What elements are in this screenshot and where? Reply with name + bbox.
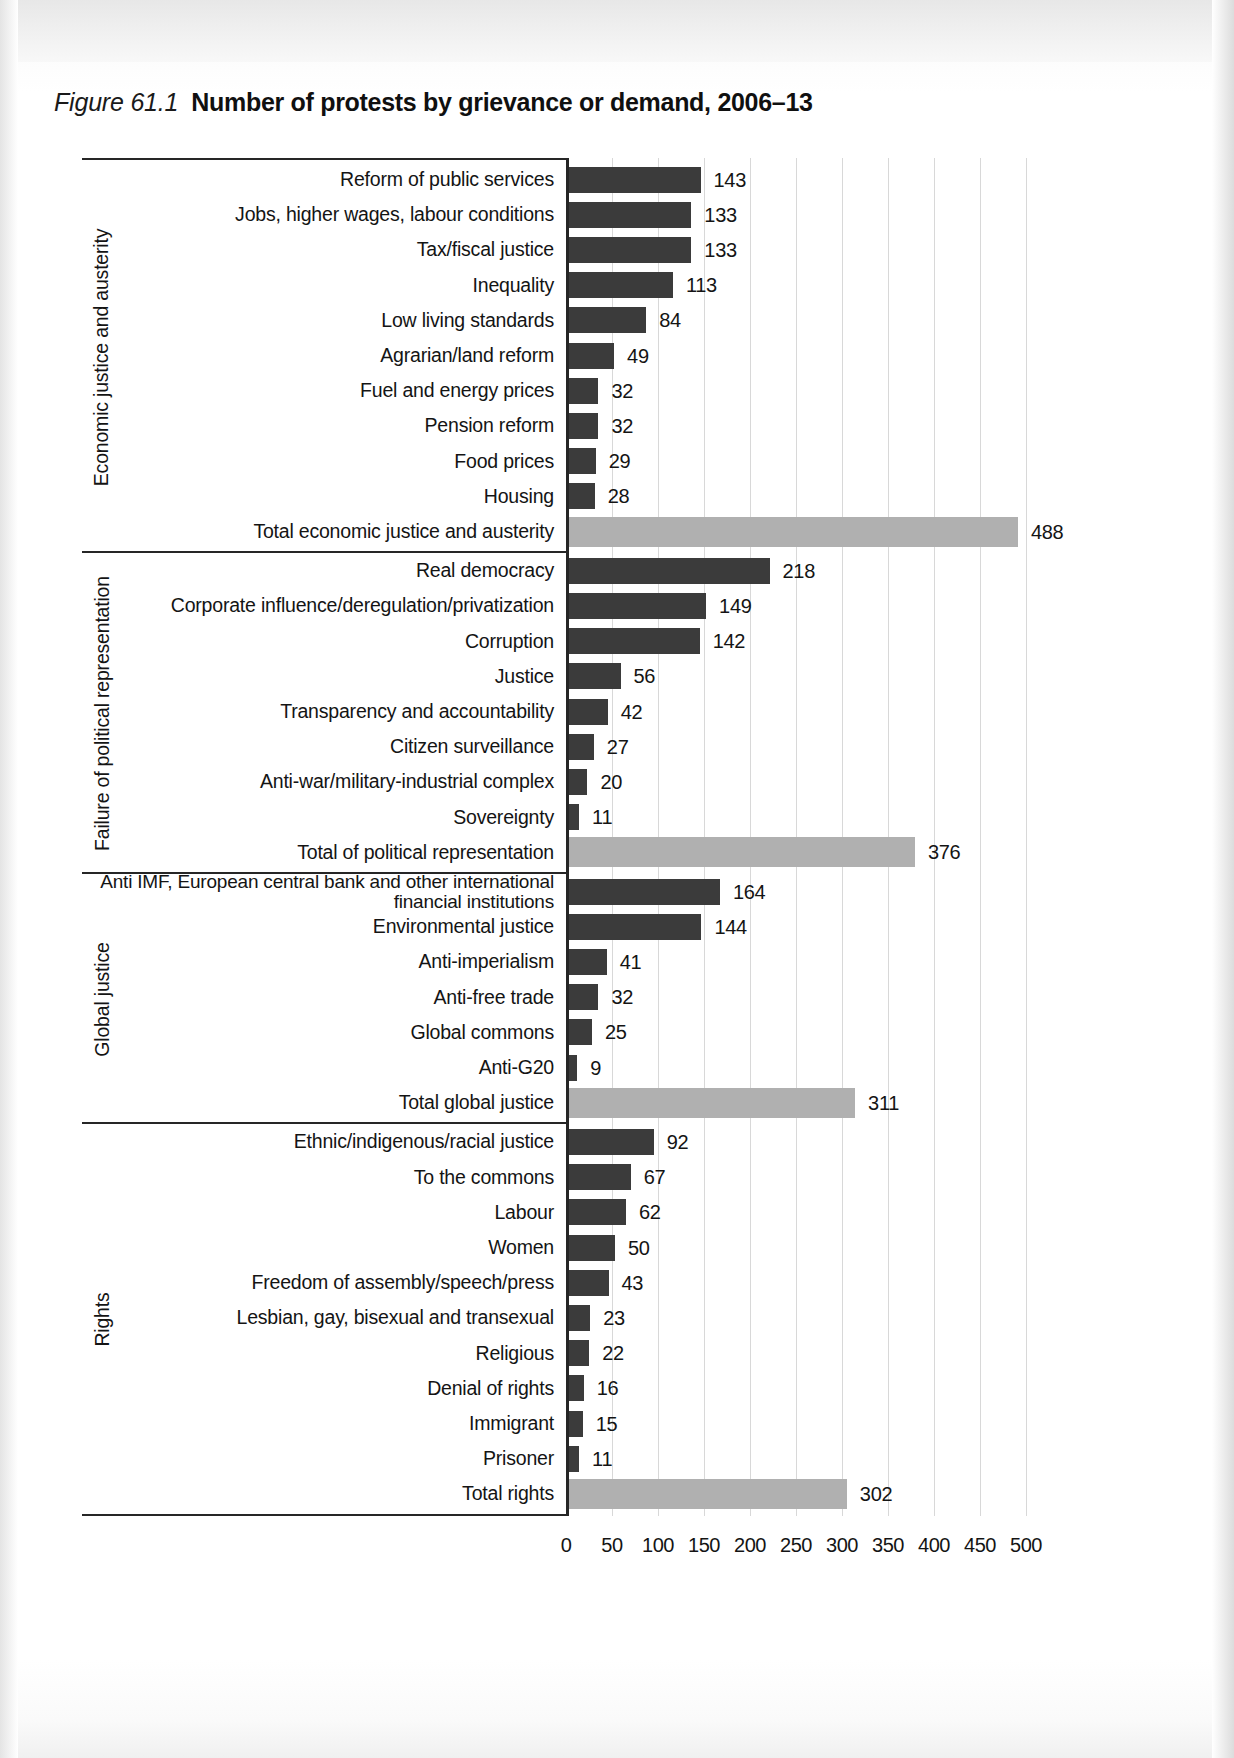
bar-value-label: 376 xyxy=(928,840,960,864)
x-axis-tick-50: 50 xyxy=(601,1534,622,1557)
group-label-text: Rights xyxy=(91,1293,114,1347)
category-bar xyxy=(569,1164,631,1190)
category-bar xyxy=(569,1235,615,1261)
category-bar xyxy=(569,1055,577,1081)
bar-chart: Reform of public services143Jobs, higher… xyxy=(82,158,1114,1518)
bar-category-label: Agrarian/land reform xyxy=(84,338,566,373)
bar-total-label: Total rights xyxy=(84,1476,566,1511)
bar-value-label: 11 xyxy=(592,805,612,829)
x-axis-tick-0: 0 xyxy=(561,1534,572,1557)
bar-category-label: Citizen surveillance xyxy=(84,729,566,764)
bar-category-label: Fuel and energy prices xyxy=(84,373,566,408)
bar-value-label: 25 xyxy=(605,1020,627,1044)
bar-value-label: 302 xyxy=(860,1482,892,1506)
category-bar xyxy=(569,1446,579,1472)
bar-category-label: Labour xyxy=(84,1195,566,1230)
bar-category-label: Denial of rights xyxy=(84,1371,566,1406)
x-axis-tick-450: 450 xyxy=(964,1534,996,1557)
category-bar xyxy=(569,1305,590,1331)
category-bar xyxy=(569,1375,584,1401)
total-bar xyxy=(569,517,1018,547)
bar-category-label: Corruption xyxy=(84,624,566,659)
bar-value-label: 164 xyxy=(733,880,765,904)
category-bar xyxy=(569,984,598,1010)
category-bar xyxy=(569,1199,626,1225)
bar-category-label: Anti IMF, European central bank and othe… xyxy=(84,874,566,909)
bar-category-label: Religious xyxy=(84,1336,566,1371)
total-bar xyxy=(569,837,915,867)
bar-category-label: Inequality xyxy=(84,268,566,303)
category-bar xyxy=(569,949,607,975)
bar-category-label: Anti-free trade xyxy=(84,980,566,1015)
category-bar xyxy=(569,663,621,689)
bar-total-label: Total economic justice and austerity xyxy=(84,514,566,549)
category-bar xyxy=(569,237,691,263)
bar-value-label: 311 xyxy=(868,1091,899,1115)
bar-value-label: 67 xyxy=(644,1165,666,1189)
axis-zero-line xyxy=(566,158,569,1516)
figure-title-row: Figure 61.1 Number of protests by grieva… xyxy=(54,88,813,117)
bar-value-label: 92 xyxy=(667,1130,689,1154)
bar-category-label: Transparency and accountability xyxy=(84,694,566,729)
category-bar xyxy=(569,1270,609,1296)
bar-value-label: 143 xyxy=(714,168,746,192)
bar-category-label: Anti-war/military-industrial complex xyxy=(84,764,566,799)
bar-total-label: Total of political representation xyxy=(84,835,566,870)
x-axis-tick-150: 150 xyxy=(688,1534,720,1557)
bar-value-label: 16 xyxy=(597,1376,619,1400)
group-label: Rights xyxy=(82,1124,122,1515)
total-bar xyxy=(569,1479,847,1509)
category-bar xyxy=(569,448,596,474)
x-axis-tick-350: 350 xyxy=(872,1534,904,1557)
category-bar xyxy=(569,1019,592,1045)
x-axis-tick-300: 300 xyxy=(826,1534,858,1557)
bar-value-label: 144 xyxy=(714,915,746,939)
gridline-500 xyxy=(1026,158,1027,1516)
bar-category-label: Prisoner xyxy=(84,1441,566,1476)
bar-category-label: Corporate influence/deregulation/privati… xyxy=(84,588,566,623)
bar-category-label: Jobs, higher wages, labour conditions xyxy=(84,197,566,232)
bar-value-label: 9 xyxy=(590,1056,601,1080)
bar-category-label: Pension reform xyxy=(84,408,566,443)
category-bar xyxy=(569,343,614,369)
bar-value-label: 23 xyxy=(603,1306,625,1330)
category-bar xyxy=(569,879,720,905)
gridline-450 xyxy=(980,158,981,1516)
bar-value-label: 42 xyxy=(621,700,643,724)
group-label: Economic justice and austerity xyxy=(82,162,122,553)
bar-value-label: 32 xyxy=(611,379,633,403)
bar-value-label: 32 xyxy=(611,985,633,1009)
bar-category-label: Sovereignty xyxy=(84,800,566,835)
bar-value-label: 113 xyxy=(686,273,717,297)
bar-value-label: 142 xyxy=(713,629,745,653)
category-bar xyxy=(569,202,691,228)
bar-category-label: Global commons xyxy=(84,1015,566,1050)
bar-value-label: 29 xyxy=(609,449,631,473)
bar-total-label: Total global justice xyxy=(84,1085,566,1120)
category-bar xyxy=(569,413,598,439)
category-bar xyxy=(569,1411,583,1437)
bar-category-label: Real democracy xyxy=(84,553,566,588)
bar-value-label: 149 xyxy=(719,594,751,618)
bar-category-label: Immigrant xyxy=(84,1406,566,1441)
bar-value-label: 133 xyxy=(704,203,736,227)
bar-category-label: Justice xyxy=(84,659,566,694)
x-axis-tick-500: 500 xyxy=(1010,1534,1042,1557)
bar-value-label: 22 xyxy=(602,1341,624,1365)
category-bar xyxy=(569,558,770,584)
group-label-text: Global justice xyxy=(91,942,114,1056)
bar-category-label: Women xyxy=(84,1230,566,1265)
category-bar xyxy=(569,804,579,830)
bar-category-label: Ethnic/indigenous/racial justice xyxy=(84,1124,566,1159)
category-bar xyxy=(569,593,706,619)
group-label: Global justice xyxy=(82,874,122,1124)
group-separator-top xyxy=(82,158,566,160)
bar-category-label: Environmental justice xyxy=(84,909,566,944)
total-bar xyxy=(569,1088,855,1118)
bar-value-label: 15 xyxy=(596,1412,618,1436)
bar-category-label: Food prices xyxy=(84,444,566,479)
bar-category-label: Anti-imperialism xyxy=(84,944,566,979)
bar-category-label: Reform of public services xyxy=(84,162,566,197)
bar-value-label: 50 xyxy=(628,1236,650,1260)
x-axis-tick-200: 200 xyxy=(734,1534,766,1557)
